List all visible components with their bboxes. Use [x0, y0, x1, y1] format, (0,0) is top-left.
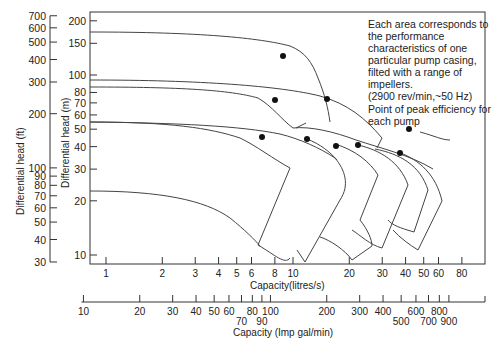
peak-point [259, 134, 265, 140]
svg-text:400: 400 [375, 306, 392, 317]
xlabel-gal: Capacity (Imp gal/min) [233, 327, 333, 338]
svg-text:30: 30 [34, 256, 46, 268]
svg-text:40: 40 [74, 141, 86, 153]
svg-text:600: 600 [28, 22, 46, 34]
chart-annotation: Each area corresponds to the performance… [368, 18, 493, 102]
annotation-speed: (2900 rev/min,~50 Hz) [368, 90, 472, 102]
ylabel-ft: Differential head (ft) [15, 127, 26, 215]
svg-text:100: 100 [28, 162, 46, 174]
svg-text:50: 50 [418, 268, 430, 279]
ylabel-m: Differential head (m) [60, 98, 71, 188]
svg-text:30: 30 [377, 268, 389, 279]
peak-point [355, 142, 361, 148]
svg-text:80: 80 [456, 268, 468, 279]
svg-text:1: 1 [103, 268, 109, 279]
svg-text:80: 80 [74, 86, 86, 98]
svg-text:150: 150 [68, 37, 86, 49]
svg-text:50: 50 [209, 306, 221, 317]
svg-text:20: 20 [344, 268, 356, 279]
svg-text:400: 400 [28, 54, 46, 66]
y-axis-m: 1020304050607080100150200 [68, 15, 97, 261]
svg-text:500: 500 [393, 316, 410, 327]
svg-text:70: 70 [236, 316, 248, 327]
svg-text:4: 4 [216, 268, 222, 279]
svg-text:20: 20 [134, 306, 146, 317]
svg-text:70: 70 [34, 190, 46, 202]
x-axis-gal: 1020304050608010020030040060080070905007… [78, 295, 485, 327]
svg-text:100: 100 [68, 69, 86, 81]
svg-text:60: 60 [223, 306, 235, 317]
svg-text:40: 40 [34, 234, 46, 246]
svg-text:500: 500 [28, 36, 46, 48]
svg-text:10: 10 [287, 268, 299, 279]
svg-text:200: 200 [318, 306, 335, 317]
y-axis-ft: 30405060708090100200300400500600700 [28, 10, 57, 268]
svg-text:200: 200 [28, 108, 46, 120]
svg-text:40: 40 [400, 268, 412, 279]
svg-text:60: 60 [34, 202, 46, 214]
svg-text:700: 700 [420, 316, 437, 327]
svg-text:2: 2 [160, 268, 166, 279]
svg-text:50: 50 [74, 123, 86, 135]
svg-text:30: 30 [74, 163, 86, 175]
svg-text:10: 10 [78, 306, 90, 317]
svg-text:60: 60 [74, 109, 86, 121]
svg-text:70: 70 [74, 97, 86, 109]
svg-text:90: 90 [256, 316, 268, 327]
svg-text:3: 3 [192, 268, 198, 279]
svg-text:30: 30 [167, 306, 179, 317]
peak-point [280, 53, 286, 59]
peak-point [397, 150, 403, 156]
peak-point [324, 96, 330, 102]
svg-text:900: 900 [441, 316, 458, 327]
svg-text:10: 10 [74, 249, 86, 261]
legend-peak-efficiency: Point of peak efficiency for each pump [368, 103, 493, 127]
svg-text:6: 6 [249, 268, 255, 279]
svg-text:20: 20 [74, 195, 86, 207]
svg-text:5: 5 [234, 268, 240, 279]
annotation-text: Each area corresponds to the performance… [368, 18, 488, 90]
svg-text:200: 200 [68, 15, 86, 27]
peak-point [272, 97, 278, 103]
svg-text:8: 8 [272, 268, 278, 279]
svg-text:300: 300 [28, 76, 46, 88]
peak-point [333, 143, 339, 149]
svg-text:40: 40 [190, 306, 202, 317]
svg-text:60: 60 [433, 268, 445, 279]
xlabel-litres: Capacity(litres/s) [250, 280, 324, 291]
svg-text:700: 700 [28, 10, 46, 22]
svg-text:50: 50 [34, 216, 46, 228]
peak-point [304, 136, 310, 142]
svg-text:300: 300 [351, 306, 368, 317]
